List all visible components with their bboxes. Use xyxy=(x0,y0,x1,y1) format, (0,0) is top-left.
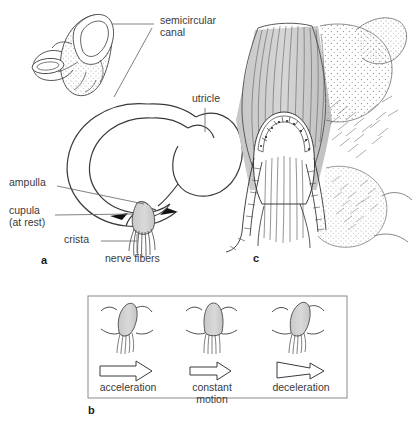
label-utricle: utricle xyxy=(192,92,220,104)
panel-letter-a: a xyxy=(41,254,47,266)
label-semicircular-canal: semicircular canal xyxy=(160,14,216,38)
labyrinth-inset xyxy=(31,14,113,95)
panel-letter-c: c xyxy=(253,252,259,264)
label-nerve-fibers: nerve fibers xyxy=(105,252,160,264)
leader-semicircular-canal-2 xyxy=(114,28,152,97)
label-deceleration: deceleration xyxy=(264,381,338,393)
label-crista: crista xyxy=(64,233,89,245)
inner-ear-figure xyxy=(0,0,414,425)
label-ampulla: ampulla xyxy=(9,176,46,188)
semicircular-canal-ring xyxy=(67,104,242,227)
leader-ampulla xyxy=(57,186,144,204)
crista-detail xyxy=(226,18,412,252)
label-acceleration: acceleration xyxy=(92,381,164,393)
label-cupula-at-rest: cupula (at rest) xyxy=(9,204,45,228)
label-constant-motion: constant motion xyxy=(178,381,246,405)
panel-letter-b: b xyxy=(88,404,95,416)
